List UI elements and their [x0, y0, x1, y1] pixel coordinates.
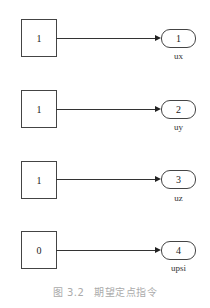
constant-block[interactable]: 1: [21, 19, 57, 57]
outport-number: 1: [176, 33, 181, 44]
outport-block[interactable]: 4: [161, 241, 196, 260]
constant-value: 1: [37, 104, 42, 115]
outport-label: upsi: [161, 263, 196, 273]
outport-label: ux: [161, 51, 196, 61]
constant-block[interactable]: 1: [21, 161, 57, 199]
outport-number: 2: [176, 104, 181, 115]
constant-value: 1: [37, 33, 42, 44]
outport-label: uz: [161, 193, 196, 203]
outport-block[interactable]: 2: [161, 100, 196, 119]
signal-line[interactable]: [56, 250, 158, 251]
constant-block[interactable]: 1: [21, 90, 57, 128]
figure-caption: 图 3.2期望定点指令: [0, 284, 210, 299]
signal-line[interactable]: [56, 38, 158, 39]
signal-line[interactable]: [56, 179, 158, 180]
outport-block[interactable]: 3: [161, 170, 196, 189]
constant-value: 1: [37, 175, 42, 186]
outport-number: 4: [176, 245, 181, 256]
constant-block[interactable]: 0: [21, 231, 57, 269]
outport-label: uy: [161, 122, 196, 132]
outport-block[interactable]: 1: [161, 29, 196, 48]
figure-number: 图 3.2: [53, 287, 85, 298]
figure-title: 期望定点指令: [94, 287, 157, 298]
constant-value: 0: [37, 245, 42, 256]
outport-number: 3: [176, 174, 181, 185]
signal-line[interactable]: [56, 109, 158, 110]
